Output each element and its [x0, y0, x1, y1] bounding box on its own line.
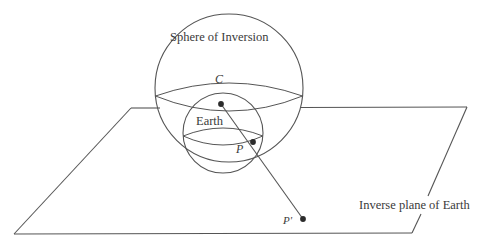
earth-label: Earth	[196, 115, 223, 128]
plane-bottom-edge	[14, 233, 412, 234]
earth-equator-back-arc	[183, 128, 263, 136]
point-p-prime-marker	[300, 216, 306, 222]
plane-right-edge-upper	[428, 107, 467, 196]
sphere-equator-front-arc	[156, 96, 303, 111]
point-p-prime-label: P'	[283, 215, 292, 226]
inversion-geometry-figure: Sphere of Inversion Earth Inverse plane …	[0, 0, 483, 245]
sphere-of-inversion-label: Sphere of Inversion	[170, 31, 269, 44]
plane-right-edge-lower	[412, 214, 421, 233]
inverse-plane-outline	[14, 107, 467, 234]
point-p-label: P	[236, 143, 243, 155]
sphere-equator-back-arc	[156, 83, 303, 96]
point-c-label: C	[215, 73, 223, 85]
point-p-marker	[250, 139, 256, 145]
point-c-marker	[218, 101, 224, 107]
plane-top-edge-right	[301, 107, 467, 108]
inverse-plane-label: Inverse plane of Earth	[359, 199, 470, 212]
plane-left-edge	[14, 108, 131, 234]
